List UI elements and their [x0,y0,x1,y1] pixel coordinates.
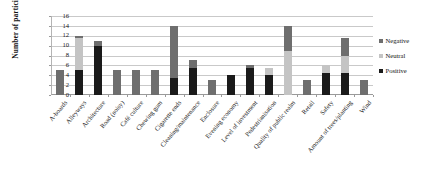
x-tick-mark [184,95,185,97]
bar-segment-positive[interactable] [227,75,235,95]
stacked-bar[interactable] [322,65,330,95]
x-tick-mark [89,95,90,97]
x-tick-mark [316,95,317,97]
stacked-bar[interactable] [132,70,140,95]
y-tick-mark [49,95,51,96]
x-tick-mark [146,95,147,97]
stacked-bar[interactable] [303,80,311,95]
bar-slot[interactable] [354,16,373,95]
bar-slot[interactable] [146,16,165,95]
bar-chart: Number of participants 0246810121416 A-b… [0,0,434,190]
stacked-bar[interactable] [113,70,121,95]
bar-slot[interactable] [184,16,203,95]
x-axis-label: Wind [357,99,371,114]
bar-slot[interactable] [259,16,278,95]
x-tick-mark [278,95,279,97]
legend-item[interactable]: Negative [379,37,433,44]
stacked-bar[interactable] [75,36,83,95]
bar-slot[interactable] [89,16,108,95]
x-tick-mark [354,95,355,97]
bar-slot[interactable] [108,16,127,95]
stacked-bar[interactable] [56,70,64,95]
bar-segment-negative[interactable] [303,80,311,95]
x-tick-mark [70,95,71,97]
stacked-bar[interactable] [360,80,368,95]
bars-layer [51,16,373,95]
bar-segment-positive[interactable] [246,68,254,95]
bar-segment-negative[interactable] [132,70,140,95]
bar-slot[interactable] [297,16,316,95]
bar-segment-positive[interactable] [75,70,83,95]
y-axis-title: Number of participants [11,0,20,71]
legend-item[interactable]: Neutral [379,52,433,59]
x-tick-mark [335,95,336,97]
bar-slot[interactable] [203,16,222,95]
bar-segment-negative[interactable] [208,80,216,95]
bar-slot[interactable] [165,16,184,95]
bar-slot[interactable] [70,16,89,95]
chart-legend: NegativeNeutralPositive [379,37,433,82]
x-tick-mark [127,95,128,97]
bar-segment-negative[interactable] [56,70,64,95]
bar-segment-negative[interactable] [360,80,368,95]
legend-swatch-icon [379,54,383,58]
stacked-bar[interactable] [151,70,159,95]
bar-slot[interactable] [221,16,240,95]
bar-segment-positive[interactable] [189,68,197,95]
legend-swatch-icon [379,39,383,43]
stacked-bar[interactable] [208,80,216,95]
bar-segment-negative[interactable] [151,70,159,95]
x-tick-mark [259,95,260,97]
bar-slot[interactable] [51,16,70,95]
x-tick-mark [221,95,222,97]
stacked-bar[interactable] [170,26,178,95]
bar-segment-positive[interactable] [94,46,102,95]
stacked-bar[interactable] [284,26,292,95]
x-tick-mark [240,95,241,97]
bar-segment-neutral[interactable] [322,65,330,72]
legend-label: Negative [386,37,410,44]
x-tick-mark [108,95,109,97]
bar-segment-negative[interactable] [113,70,121,95]
bar-segment-neutral[interactable] [75,38,83,70]
bar-segment-positive[interactable] [265,75,273,95]
bar-slot[interactable] [316,16,335,95]
bar-segment-positive[interactable] [170,78,178,95]
legend-swatch-icon [379,69,383,73]
legend-label: Positive [386,67,407,74]
stacked-bar[interactable] [341,38,349,95]
bar-segment-negative[interactable] [170,26,178,78]
bar-segment-neutral[interactable] [284,51,292,95]
x-tick-mark [165,95,166,97]
x-axis-label: Safety [318,99,334,116]
bar-segment-neutral[interactable] [265,68,273,75]
stacked-bar[interactable] [246,65,254,95]
bar-segment-negative[interactable] [189,60,197,67]
bar-slot[interactable] [127,16,146,95]
legend-label: Neutral [386,52,406,59]
x-axis-label: Retail [300,99,315,115]
stacked-bar[interactable] [189,60,197,95]
bar-segment-positive[interactable] [341,73,349,95]
x-tick-mark [373,95,374,97]
legend-item[interactable]: Positive [379,67,433,74]
bar-slot[interactable] [240,16,259,95]
bar-slot[interactable] [335,16,354,95]
x-tick-mark [297,95,298,97]
stacked-bar[interactable] [265,68,273,95]
bar-segment-positive[interactable] [322,73,330,95]
bar-segment-neutral[interactable] [341,56,349,73]
bar-segment-negative[interactable] [284,26,292,51]
x-tick-mark [203,95,204,97]
stacked-bar[interactable] [227,75,235,95]
bar-segment-negative[interactable] [341,38,349,55]
bar-slot[interactable] [278,16,297,95]
stacked-bar[interactable] [94,41,102,95]
